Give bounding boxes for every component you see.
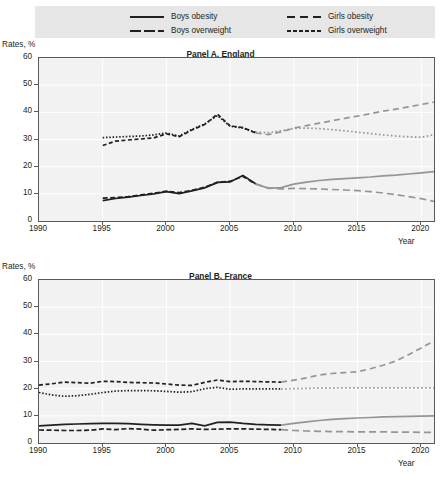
y-tick-mark	[34, 193, 38, 194]
dotted-line-icon	[287, 26, 321, 36]
y-tick-label: 20	[0, 384, 32, 392]
y-axis-label: Rates, %	[2, 40, 35, 49]
legend-label: Girls obesity	[328, 12, 373, 22]
x-tick-mark	[229, 443, 230, 447]
y-tick-mark	[34, 361, 38, 362]
y-tick-mark	[34, 139, 38, 140]
y-tick-mark	[34, 111, 38, 112]
solid-line-icon	[130, 12, 164, 22]
x-axis-label: Year	[398, 237, 415, 246]
y-tick-label: 40	[0, 329, 32, 337]
legend-item-boys-overweight: Boys overweight	[130, 24, 231, 38]
y-tick-label: 50	[0, 302, 32, 310]
legend-item-girls-overweight: Girls overweight	[287, 24, 387, 38]
x-tick-label: 1990	[18, 224, 58, 233]
x-tick-label: 2015	[337, 446, 377, 455]
y-tick-label: 60	[0, 275, 32, 283]
y-tick-label: 20	[0, 162, 32, 170]
x-tick-label: 2005	[209, 224, 249, 233]
x-tick-label: 2000	[145, 446, 185, 455]
legend-label: Girls overweight	[328, 26, 387, 36]
y-tick-mark	[34, 84, 38, 85]
y-tick-label: 60	[0, 53, 32, 61]
x-tick-label: 2000	[145, 224, 185, 233]
y-tick-label: 30	[0, 357, 32, 365]
plot-area-france	[38, 279, 435, 444]
y-tick-label: 0	[0, 438, 32, 446]
long-dash-line-icon	[130, 26, 164, 36]
x-tick-mark	[293, 443, 294, 447]
y-tick-mark	[34, 166, 38, 167]
x-tick-label: 1990	[18, 446, 58, 455]
x-tick-mark	[357, 221, 358, 225]
y-tick-label: 0	[0, 216, 32, 224]
plot-area-england	[38, 57, 435, 222]
legend-label: Boys obesity	[171, 12, 217, 22]
x-tick-mark	[293, 221, 294, 225]
y-tick-mark	[34, 415, 38, 416]
x-tick-label: 2010	[273, 224, 313, 233]
x-tick-mark	[229, 221, 230, 225]
dash-line-icon	[287, 12, 321, 22]
x-tick-label: 2020	[400, 224, 440, 233]
x-tick-label: 2010	[273, 446, 313, 455]
y-axis-label: Rates, %	[2, 262, 35, 271]
chart-page: Boys obesity Boys overweight Girls obesi…	[0, 0, 441, 486]
y-tick-label: 50	[0, 80, 32, 88]
x-tick-mark	[420, 221, 421, 225]
y-tick-label: 10	[0, 411, 32, 419]
x-tick-label: 1995	[82, 446, 122, 455]
series-canvas-england	[39, 58, 434, 221]
y-tick-mark	[34, 306, 38, 307]
chart-legend: Boys obesity Boys overweight Girls obesi…	[35, 6, 435, 38]
x-tick-mark	[357, 443, 358, 447]
legend-label: Boys overweight	[171, 26, 231, 36]
x-tick-mark	[420, 443, 421, 447]
series-canvas-france	[39, 280, 434, 443]
x-tick-mark	[165, 221, 166, 225]
x-tick-mark	[102, 443, 103, 447]
x-axis-label: Year	[398, 459, 415, 468]
x-tick-label: 1995	[82, 224, 122, 233]
x-tick-label: 2015	[337, 224, 377, 233]
x-tick-label: 2020	[400, 446, 440, 455]
y-tick-label: 40	[0, 107, 32, 115]
x-tick-mark	[102, 221, 103, 225]
x-tick-label: 2005	[209, 446, 249, 455]
y-tick-label: 10	[0, 189, 32, 197]
y-tick-label: 30	[0, 135, 32, 143]
y-tick-mark	[34, 388, 38, 389]
panel-france: Rates, % Panel B. France 6050403020100 1…	[0, 262, 441, 486]
y-tick-mark	[34, 333, 38, 334]
panel-england: Rates, % Panel A. England 6050403020100 …	[0, 40, 441, 255]
legend-item-girls-obesity: Girls obesity	[287, 10, 373, 24]
x-tick-mark	[165, 443, 166, 447]
legend-item-boys-obesity: Boys obesity	[130, 10, 217, 24]
